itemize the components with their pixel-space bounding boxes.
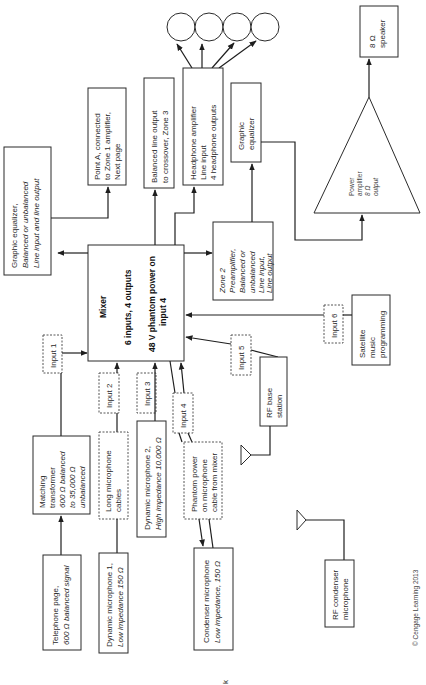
svg-text:unbalanced: unbalanced [248, 251, 257, 293]
telephone-page-box: Telephone page, 600 Ω balanced signal [43, 555, 81, 650]
svg-text:to 35,000 Ω: to 35,000 Ω [68, 466, 77, 508]
svg-text:Input 1: Input 1 [49, 343, 58, 368]
svg-text:Input 5: Input 5 [237, 345, 246, 370]
matching-transformer-box: Matching transformer 600 Ω balanced to 3… [33, 436, 90, 514]
antenna-icon [241, 445, 251, 465]
svg-text:output: output [372, 177, 380, 196]
rf-base-station-box: RF base station [260, 357, 287, 426]
svg-text:input 4: input 4 [158, 298, 168, 326]
svg-text:microphone: microphone [341, 578, 350, 620]
svg-text:Balanced line output: Balanced line output [150, 110, 159, 183]
svg-text:Telephone page,: Telephone page, [51, 586, 60, 645]
svg-text:speaker: speaker [378, 19, 387, 48]
zone2-preamplifier-box: Zone 2 Preamplifier, Balanced or unbalan… [213, 222, 274, 300]
svg-text:programming: programming [378, 311, 387, 358]
svg-text:amplifier: amplifier [356, 171, 364, 196]
svg-text:Condenser microphone: Condenser microphone [202, 559, 211, 643]
svg-text:RF condenser: RF condenser [331, 569, 340, 620]
svg-text:Graphic equalizer,: Graphic equalizer, [10, 204, 19, 268]
phantom-power-cable-box: Phantom power on microphone cable from m… [184, 442, 222, 519]
svg-text:station: station [275, 394, 284, 418]
svg-text:Low impedance 150 Ω: Low impedance 150 Ω [116, 567, 125, 647]
svg-text:Low impedance, 150 Ω: Low impedance, 150 Ω [213, 561, 222, 643]
svg-text:Satellite: Satellite [358, 329, 367, 358]
input-4-label: Input 4 [173, 393, 193, 433]
svg-text:RF base: RF base [265, 387, 274, 418]
headphone-icon [195, 13, 223, 41]
graphic-equalizer-zone2-box: Graphic equalizer [231, 83, 261, 162]
svg-text:to crossover, Zone 3: to crossover, Zone 3 [161, 110, 170, 183]
dynamic-microphone-1-box: Dynamic microphone 1, Low impedance 150 … [99, 553, 128, 653]
svg-text:Input 2: Input 2 [105, 383, 114, 408]
balanced-line-output-box: Balanced line output to crossover, Zone … [144, 78, 174, 188]
svg-text:48 V phantom power on: 48 V phantom power on [147, 256, 157, 352]
svg-text:on microphone: on microphone [200, 459, 209, 512]
svg-text:Next page: Next page [113, 143, 122, 180]
svg-text:Headphone amplifier: Headphone amplifier [189, 106, 198, 180]
svg-text:Line input: Line input [199, 145, 208, 180]
power-amplifier-triangle: Power amplifier 8 Ω output [314, 97, 420, 213]
satellite-music-box: Satellite music programming [352, 295, 390, 365]
svg-text:Balanced or: Balanced or [238, 250, 247, 293]
svg-text:Line input and line output: Line input and line output [32, 178, 41, 268]
svg-text:Input 6: Input 6 [330, 313, 339, 338]
headphone-icon [251, 13, 279, 41]
svg-text:Power: Power [348, 177, 355, 196]
input-5-label: Input 5 [231, 335, 251, 375]
rf-condenser-microphone-box: RF condenser microphone [325, 560, 354, 627]
speaker-box: 8 Ω speaker [360, 6, 398, 57]
svg-text:600 Ω balanced signal: 600 Ω balanced signal [62, 565, 71, 645]
svg-text:Balanced or unbalanced: Balanced or unbalanced [21, 181, 30, 268]
point-a-box: Point A, connected to Zone 1 amplifier, … [88, 88, 126, 185]
svg-text:cable from mixer: cable from mixer [210, 453, 219, 512]
svg-text:Point A, connected: Point A, connected [93, 113, 102, 180]
svg-text:Mixer: Mixer [98, 295, 108, 318]
condenser-microphone-box: Condenser microphone Low impedance, 150 … [194, 548, 233, 650]
svg-text:8 Ω: 8 Ω [368, 35, 377, 48]
svg-text:Dynamic microphone 1,: Dynamic microphone 1, [105, 563, 114, 647]
svg-text:Input 4: Input 4 [179, 403, 188, 428]
svg-text:Graphic: Graphic [237, 122, 246, 150]
svg-text:6 inputs, 4 outputs: 6 inputs, 4 outputs [123, 269, 133, 345]
headphone-amplifier-box: Headphone amplifier Line input 4 headpho… [183, 68, 223, 185]
dynamic-microphone-2-box: Dynamic microphone 2, High impedance 10,… [137, 421, 166, 537]
svg-text:8 Ω: 8 Ω [364, 186, 371, 196]
mixer-box: Mixer 6 inputs, 4 outputs 48 V phantom p… [88, 245, 184, 361]
copyright-text: © Cengage Learning 2013 [412, 569, 420, 646]
headphone-icon [223, 13, 251, 41]
svg-text:cables: cables [114, 489, 123, 512]
input-2-label: Input 2 [99, 373, 119, 413]
graphic-equalizer-main-box: Graphic equalizer, Balanced or unbalance… [4, 147, 51, 275]
svg-text:to Zone 1 amplifier,: to Zone 1 amplifier, [103, 112, 112, 180]
input-3-label: Input 3 [137, 373, 156, 413]
input-1-label: Input 1 [43, 335, 62, 373]
svg-text:Preamplifier,: Preamplifier, [228, 249, 237, 293]
svg-text:Phantom power: Phantom power [190, 456, 199, 512]
svg-text:Line output: Line output [265, 253, 274, 293]
audio-system-diagram: Point A, connected to Zone 1 amplifier, … [0, 0, 426, 685]
svg-text:4 headphone outputs: 4 headphone outputs [209, 105, 218, 180]
svg-text:music: music [368, 337, 377, 358]
headphone-icon [167, 13, 195, 41]
svg-text:unbalanced: unbalanced [78, 466, 87, 508]
svg-text:Input 3: Input 3 [143, 381, 152, 406]
stray-mark: k [221, 679, 230, 684]
svg-text:equalizer: equalizer [247, 117, 256, 150]
svg-text:Dynamic microphone 2,: Dynamic microphone 2, [143, 446, 152, 530]
svg-text:Long microphone: Long microphone [104, 450, 113, 512]
input-6-label: Input 6 [324, 305, 343, 343]
long-microphone-cables-box: Long microphone cables [99, 432, 128, 519]
svg-text:Zone 2: Zone 2 [218, 268, 227, 294]
antenna-icon [297, 510, 306, 530]
svg-text:600 Ω balanced: 600 Ω balanced [58, 451, 67, 508]
svg-text:Matching: Matching [38, 476, 47, 508]
svg-text:transformer: transformer [48, 467, 57, 508]
svg-text:High impedance 10,000 Ω: High impedance 10,000 Ω [154, 437, 163, 530]
headphone-outputs [167, 13, 279, 68]
